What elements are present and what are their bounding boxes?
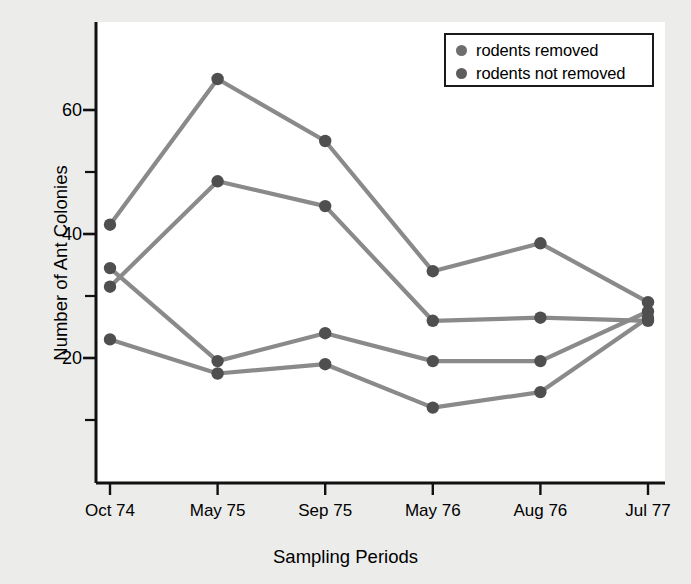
- data-point-marker: [534, 355, 546, 367]
- data-point-marker: [211, 367, 223, 379]
- legend-marker-icon: [456, 68, 467, 79]
- data-point-marker: [211, 355, 223, 367]
- data-point-marker: [104, 262, 116, 274]
- data-point-marker: [211, 175, 223, 187]
- x-tick-label: Oct 74: [85, 501, 135, 521]
- chart-plot-area: [0, 0, 691, 584]
- data-point-marker: [319, 358, 331, 370]
- legend-item-rodents-not-removed: rodents not removed: [456, 62, 652, 85]
- data-point-marker: [104, 281, 116, 293]
- data-point-marker: [427, 315, 439, 327]
- x-axis-ticks: [110, 483, 648, 495]
- x-tick-label: Jul 77: [625, 501, 670, 521]
- legend-label: rodents removed: [476, 41, 598, 60]
- chart-figure: 204060 Oct 74May 75Sep 75May 76Aug 76Jul…: [0, 0, 691, 584]
- data-point-marker: [427, 401, 439, 413]
- chart-legend: rodents removed rodents not removed: [444, 33, 654, 87]
- data-point-marker: [104, 333, 116, 345]
- y-axis-title: Number of Ant Colonies: [50, 128, 72, 398]
- data-point-marker: [211, 73, 223, 85]
- data-point-marker: [427, 355, 439, 367]
- legend-item-rodents-removed: rodents removed: [456, 39, 652, 62]
- data-point-marker: [534, 386, 546, 398]
- data-point-marker: [319, 135, 331, 147]
- data-point-marker: [319, 200, 331, 212]
- y-axis-ticks: [83, 110, 96, 420]
- x-tick-label: Aug 76: [513, 501, 567, 521]
- x-tick-label: May 75: [190, 501, 246, 521]
- data-point-marker: [104, 219, 116, 231]
- x-axis-title: Sampling Periods: [0, 546, 691, 568]
- data-point-marker: [427, 265, 439, 277]
- data-point-marker: [534, 237, 546, 249]
- y-tick-label: 60: [36, 100, 82, 121]
- legend-label: rodents not removed: [476, 64, 625, 83]
- x-tick-label: Sep 75: [298, 501, 352, 521]
- plot-background: [96, 22, 665, 482]
- legend-marker-icon: [456, 45, 467, 56]
- data-point-marker: [642, 312, 654, 324]
- data-point-marker: [534, 312, 546, 324]
- x-tick-label: May 76: [405, 501, 461, 521]
- data-point-marker: [319, 327, 331, 339]
